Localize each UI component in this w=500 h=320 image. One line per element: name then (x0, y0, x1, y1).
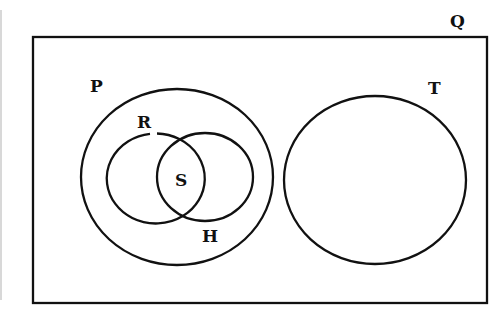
label-q: Q (450, 11, 465, 31)
venn-diagram: Q P R H S T (0, 0, 500, 320)
set-t-circle (284, 96, 466, 264)
label-p: P (90, 76, 103, 96)
label-s: S (175, 170, 187, 190)
label-t: T (428, 78, 441, 98)
label-h: H (202, 226, 218, 246)
label-r: R (137, 112, 152, 132)
set-r-circle (107, 134, 205, 224)
